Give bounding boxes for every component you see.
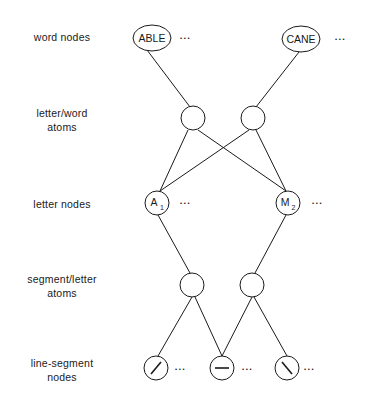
ellipsis-after-a1: • • • — [180, 200, 190, 206]
letter-node-m2-subscript: 2 — [292, 204, 296, 211]
ellipsis-after-able: • • • — [180, 35, 190, 41]
edge-cane-to-atom2 — [256, 52, 299, 107]
edge-a1-to-segatom1 — [158, 215, 190, 273]
edge-able-to-atom1 — [147, 50, 190, 107]
ellipsis-after-m2: • • • — [312, 200, 322, 206]
edge-segatom2-to-seg3 — [254, 297, 287, 356]
letter-word-atom-2 — [241, 106, 265, 130]
ellipsis-after-seg3: • • • — [304, 366, 314, 372]
ellipsis-after-cane: • • • — [335, 36, 345, 42]
letter-node-a1-label: A — [150, 196, 157, 208]
edge-atom2-to-a1 — [160, 130, 249, 191]
letter-word-atom-1 — [181, 106, 205, 130]
ellipsis-after-seg1: • • • — [175, 366, 185, 372]
ellipsis-after-seg2: • • • — [242, 366, 252, 372]
hierarchical-network-diagram: word nodes letter/word atoms letter node… — [0, 0, 371, 406]
letter-node-m2-label: M — [281, 196, 290, 208]
edge-segatom2-to-seg2 — [222, 297, 252, 356]
segment-letter-atom-1 — [180, 273, 204, 297]
edge-m2-to-segatom2 — [255, 215, 286, 273]
word-node-able-label: ABLE — [139, 32, 166, 44]
edge-atom1-to-m2 — [198, 130, 286, 191]
word-node-cane-label: CANE — [286, 33, 315, 45]
edge-segatom1-to-seg1 — [158, 297, 192, 356]
edge-segatom1-to-seg2 — [195, 297, 222, 356]
segment-letter-atom-2 — [240, 273, 264, 297]
network-graph: ABLE CANE A 1 M 2 • • • • • • • • • • • … — [0, 0, 371, 406]
letter-node-a1-subscript: 1 — [160, 204, 164, 211]
edge-atom2-to-m2 — [256, 130, 286, 191]
